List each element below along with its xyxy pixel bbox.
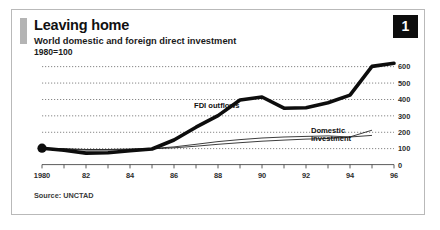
y-tick-label-500: 500 <box>398 79 424 88</box>
annotation-domestic-investment-line2: investment <box>311 135 351 143</box>
y-tick-label-400: 400 <box>398 95 424 104</box>
y-tick-label-200: 200 <box>398 128 424 137</box>
annotation-fdi-outflows: FDI outflows <box>194 102 240 110</box>
x-tick-label-88: 88 <box>201 171 235 180</box>
source-note: Source: UNCTAD <box>34 191 93 200</box>
y-tick-label-0: 0 <box>398 161 424 170</box>
y-tick-label-600: 600 <box>398 62 424 71</box>
x-tick-label-94: 94 <box>333 171 367 180</box>
x-tick-label-90: 90 <box>245 171 279 180</box>
y-tick-label-300: 300 <box>398 112 424 121</box>
x-tick-label-84: 84 <box>113 171 147 180</box>
x-tick-label-1980: 1980 <box>25 171 59 180</box>
x-axis-ticks <box>42 165 394 169</box>
x-tick-label-86: 86 <box>157 171 191 180</box>
chart-svg <box>12 10 426 216</box>
series-start-marker <box>37 144 46 153</box>
plot-area <box>12 10 426 216</box>
chart-figure: 1 Leaving home World domestic and foreig… <box>11 9 425 215</box>
x-tick-label-82: 82 <box>69 171 103 180</box>
x-tick-label-92: 92 <box>289 171 323 180</box>
x-tick-label-96: 96 <box>377 171 411 180</box>
y-tick-label-100: 100 <box>398 144 424 153</box>
